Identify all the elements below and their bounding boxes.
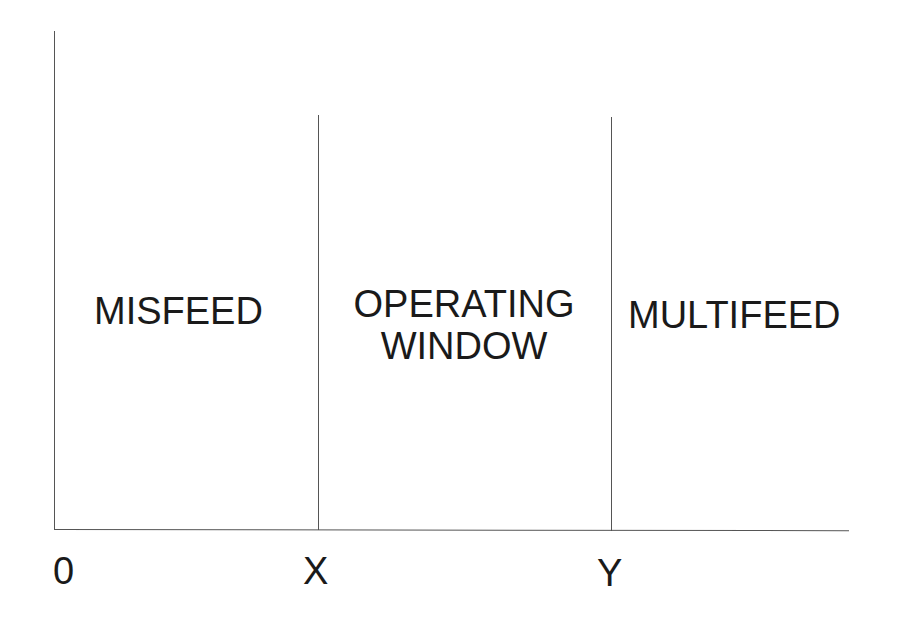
operating-window-diagram: MISFEED OPERATING WINDOW MULTIFEED 0 X Y [0,0,906,626]
tick-label-zero: 0 [53,550,74,592]
tick-label-x: X [303,550,328,592]
region-label-operating-line1: OPERATING [335,283,593,325]
vertical-axis-line [54,31,55,529]
region-label-operating-window: OPERATING WINDOW [335,283,593,367]
boundary-line-x [318,115,319,530]
horizontal-axis-line [54,529,849,531]
tick-label-y: Y [597,552,622,594]
region-label-multifeed: MULTIFEED [628,294,841,336]
boundary-line-y [611,117,612,531]
region-label-operating-line2: WINDOW [335,325,593,367]
region-label-misfeed: MISFEED [94,290,263,332]
